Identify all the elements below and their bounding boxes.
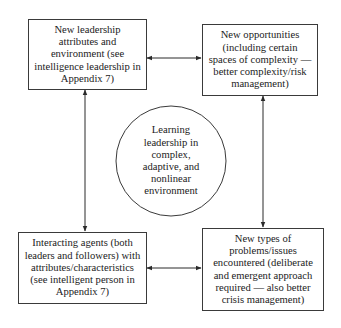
node-bottom-right: New types of problems/issues encountered… — [202, 228, 324, 311]
node-top-right: New opportunities (including certain spa… — [202, 24, 318, 96]
diagram-canvas: New leadership attributes and environmen… — [0, 0, 341, 328]
node-center: Learning leadership in complex, adaptive… — [116, 107, 226, 215]
node-bottom-left-text: Interacting agents (both leaders and fol… — [25, 237, 141, 298]
node-top-right-text: New opportunities (including certain spa… — [209, 29, 312, 90]
node-center-text: Learning leadership in complex, adaptive… — [143, 124, 199, 197]
node-top-left-text: New leadership attributes and environmen… — [34, 24, 141, 85]
node-bottom-left: Interacting agents (both leaders and fol… — [18, 232, 147, 304]
node-top-left: New leadership attributes and environmen… — [28, 19, 147, 90]
node-bottom-right-text: New types of problems/issues encountered… — [213, 233, 313, 306]
